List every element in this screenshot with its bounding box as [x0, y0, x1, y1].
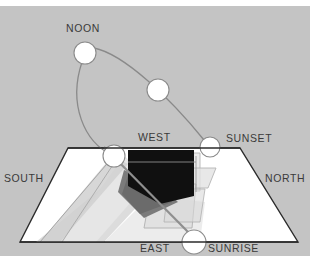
sun-disc-sunset[interactable] — [200, 137, 220, 157]
label-south: SOUTH — [4, 172, 44, 184]
sun-path-diagram: NOON SUNSET SUNRISE WEST EAST SOUTH NORT… — [0, 6, 310, 256]
figure-frame: NOON SUNSET SUNRISE WEST EAST SOUTH NORT… — [0, 0, 316, 263]
label-sunset: SUNSET — [226, 132, 272, 144]
diagram-stage: NOON SUNSET SUNRISE WEST EAST SOUTH NORT… — [0, 6, 310, 256]
label-east: EAST — [140, 242, 170, 254]
sun-disc-noon[interactable] — [74, 42, 96, 64]
label-sunrise: SUNRISE — [208, 242, 259, 254]
label-noon: NOON — [66, 22, 100, 34]
sun-disc-afternoon[interactable] — [147, 79, 169, 101]
label-north: NORTH — [265, 172, 305, 184]
label-west: WEST — [138, 131, 171, 143]
